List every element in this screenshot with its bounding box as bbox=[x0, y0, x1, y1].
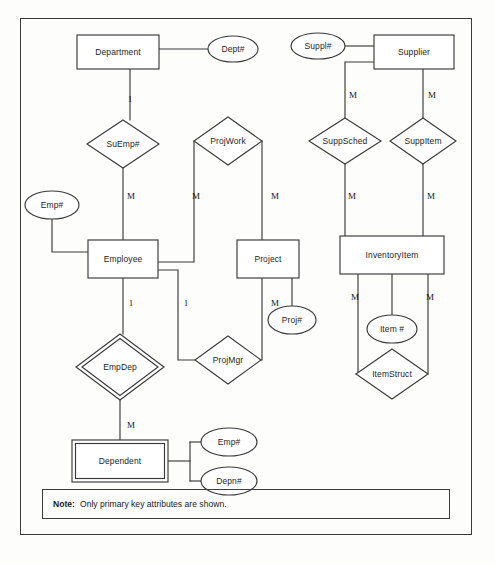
edge-project-projmgr bbox=[261, 278, 262, 360]
entity-label-department: Department bbox=[95, 48, 140, 57]
attribute-label-dep-num: Depn# bbox=[216, 477, 242, 486]
entity-label-project: Project bbox=[254, 255, 281, 264]
relationship-label-empdep: EmpDep bbox=[103, 363, 137, 372]
attribute-label-proj-num: Proj# bbox=[282, 316, 302, 325]
cardinality-empdep-dependent: M bbox=[127, 420, 135, 430]
note-box: Note: Only primary key attributes are sh… bbox=[42, 489, 450, 519]
edge-inventory-itemstruct-left bbox=[356, 274, 358, 374]
cardinality-supplier-suppitem: M bbox=[428, 90, 436, 100]
entity-label-dependent: Dependent bbox=[99, 457, 142, 466]
cardinality-supplier-suppsched: M bbox=[349, 90, 357, 100]
relationship-label-suemp: SuEmp# bbox=[106, 140, 139, 149]
diagram-shapes-layer bbox=[0, 0, 495, 564]
cardinality-project-projmgr: M bbox=[271, 298, 279, 308]
entity-label-employee: Employee bbox=[104, 255, 143, 264]
relationship-label-projmgr: ProjMgr bbox=[213, 356, 243, 365]
cardinality-projwork-project: M bbox=[271, 191, 279, 201]
relationship-label-projwork: ProjWork bbox=[210, 137, 246, 146]
relationship-label-suppsched: SuppSched bbox=[323, 137, 368, 146]
attribute-label-item-num: Item # bbox=[380, 325, 404, 334]
er-diagram-canvas: DepartmentSupplierEmployeeProjectInvento… bbox=[0, 0, 495, 564]
note-label: Note: bbox=[53, 499, 75, 509]
cardinality-suppsched-inv: M bbox=[348, 191, 356, 201]
cardinality-projwork-employee: M bbox=[192, 191, 200, 201]
cardinality-suppitem-inv: M bbox=[427, 191, 435, 201]
entity-label-inventoryitem: InventoryItem bbox=[366, 251, 419, 260]
note-text: Only primary key attributes are shown. bbox=[80, 499, 227, 509]
entity-label-supplier: Supplier bbox=[398, 48, 430, 57]
cardinality-dept-suemp: 1 bbox=[128, 94, 133, 104]
cardinality-employee-empdep: 1 bbox=[129, 298, 134, 308]
edge-employee-projmgr bbox=[158, 270, 195, 360]
relationship-label-suppitem: SuppItem bbox=[404, 137, 441, 146]
cardinality-employee-projmgr: 1 bbox=[184, 298, 189, 308]
attribute-label-emp-num: Emp# bbox=[41, 201, 64, 210]
diagram-node-shapes bbox=[25, 33, 456, 495]
cardinality-inv-right: M bbox=[426, 292, 434, 302]
cardinality-suemp-employee: M bbox=[127, 191, 135, 201]
attribute-label-suppl-num: Suppl# bbox=[304, 42, 331, 51]
cardinality-inv-left: M bbox=[351, 292, 359, 302]
edge-projwork-employee bbox=[158, 141, 194, 262]
relationship-label-itemstruct: ItemStruct bbox=[372, 370, 412, 379]
edge-empnum-employee bbox=[52, 219, 88, 252]
attribute-label-dept-num: Dept# bbox=[221, 45, 244, 54]
attribute-label-dep-emp: Emp# bbox=[218, 438, 241, 447]
